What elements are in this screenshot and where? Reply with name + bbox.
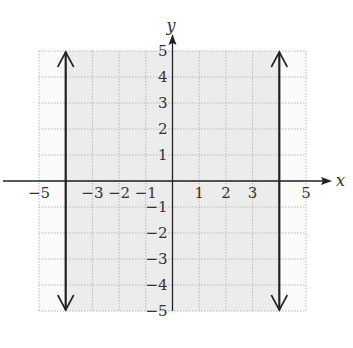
y-axis-label: y	[166, 16, 177, 35]
y-tick-label: 5	[158, 42, 168, 60]
x-tick-label: −2	[108, 184, 130, 202]
x-tick-label: 1	[194, 184, 204, 202]
coordinate-plane: xy−5−3−2−1123554321−1−2−3−4−5	[0, 0, 353, 348]
y-tick-label: −4	[145, 276, 167, 294]
y-tick-label: 4	[158, 68, 168, 86]
x-tick-label: 3	[248, 184, 258, 202]
y-tick-label: −3	[145, 250, 167, 268]
x-tick-label: 5	[301, 184, 311, 202]
y-tick-label: −1	[145, 198, 167, 216]
x-tick-label: 2	[221, 184, 231, 202]
y-tick-label: −5	[145, 302, 167, 320]
y-tick-label: 2	[158, 120, 168, 138]
x-tick-label: −3	[81, 184, 103, 202]
y-tick-label: 3	[158, 94, 168, 112]
y-tick-label: 1	[158, 146, 168, 164]
y-tick-label: −2	[145, 224, 167, 242]
x-tick-label: −5	[28, 184, 50, 202]
x-axis-label: x	[336, 171, 345, 190]
